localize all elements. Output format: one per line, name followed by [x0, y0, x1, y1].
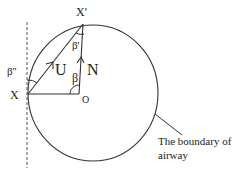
label-x-prime: X'	[76, 5, 87, 19]
label-boundary-line2: airway	[158, 149, 188, 161]
label-n: N	[87, 61, 99, 78]
angle-beta-arc	[70, 85, 80, 94]
label-o: O	[82, 94, 89, 105]
label-x: X	[10, 88, 19, 102]
boundary-leader-line	[155, 114, 182, 135]
label-beta-prime: β'	[72, 39, 80, 51]
label-boundary-line1: The boundary of	[158, 135, 232, 147]
label-beta: β	[72, 71, 78, 85]
airway-diagram: X' X O U N β β' β'' The boundary of airw…	[0, 0, 248, 170]
label-beta-double-prime: β''	[7, 65, 17, 77]
label-u: U	[55, 61, 67, 78]
airway-boundary-circle	[28, 25, 158, 161]
